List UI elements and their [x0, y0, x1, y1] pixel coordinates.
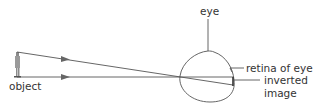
object-label: object — [9, 81, 41, 92]
eye-label: eye — [200, 6, 219, 17]
retina-label: retina of eye — [246, 63, 313, 74]
object-figure-icon — [14, 52, 21, 78]
eye-outline — [180, 51, 234, 102]
inverted-label-line2: image — [264, 88, 297, 99]
inverted-label-line1: inverted — [264, 75, 308, 86]
arrow-icon — [61, 56, 70, 62]
ray-from-top — [17, 52, 233, 85]
arrow-icon — [61, 74, 70, 80]
